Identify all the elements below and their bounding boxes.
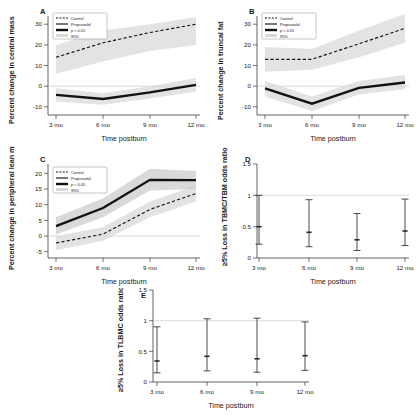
- panel-b-xlabel: Time postburn: [310, 134, 356, 143]
- panel-c-xlabel: Time postburn: [101, 277, 147, 286]
- panel-c-ylabel: Percent change in peripheral lean mass: [7, 146, 16, 270]
- panel-c-y-ticks: -5 0 5 10 15 20: [35, 170, 48, 255]
- panel-a-legend: Control Propranolol p < 0.05 95%: [53, 13, 107, 39]
- panel-a-letter: A: [40, 7, 46, 16]
- panel-e-xtick-1: 6 mo: [200, 388, 214, 395]
- panel-b-xtick-0: 3 mo: [258, 121, 272, 128]
- panel-c: Percent change in peripheral lean mass C…: [0, 146, 210, 291]
- panel-d-errorbar-9mo: [354, 214, 361, 251]
- panel-a-ytick-4: 30: [35, 20, 42, 27]
- panel-a-ytick-1: 0: [39, 82, 43, 89]
- panel-e-xtick-3: 12 mo: [296, 388, 314, 395]
- panel-b-ytick-1: 0: [248, 82, 252, 89]
- panel-c-xtick-1: 6 mo: [96, 264, 110, 271]
- panel-b-xtick-1: 6 mo: [305, 121, 319, 128]
- panel-a-y-ticks: -10 0 10 20 30: [33, 20, 48, 110]
- legend-label-significance: p < 0.05: [71, 182, 85, 187]
- legend-label-propranolol: Propranolol: [71, 22, 91, 27]
- panel-a-ylabel: Percent change in central mass: [7, 16, 16, 124]
- panel-d-xtick-3: 12 mo: [396, 264, 414, 271]
- panel-b-xtick-2: 9 mo: [352, 121, 366, 128]
- panel-e-xlabel: Time postburn: [208, 401, 254, 410]
- panel-a-x-ticks: 3 mo 6 mo 9 mo 12 mo: [49, 115, 205, 128]
- legend-label-interval: 95%: [71, 34, 79, 39]
- panel-d-x-ticks: 3 mo 6 mo 9 mo 12 mo: [252, 258, 414, 271]
- panel-d-xtick-1: 6 mo: [302, 264, 316, 271]
- panel-a-xtick-1: 6 mo: [96, 121, 110, 128]
- panel-b-letter: B: [249, 7, 255, 16]
- panel-c-ytick-2: 5: [39, 217, 43, 224]
- panel-e-ytick-1: 0.5: [138, 348, 147, 355]
- panel-d-errorbar-6mo: [306, 200, 313, 247]
- panel-d-xtick-2: 9 mo: [350, 264, 364, 271]
- panel-b-y-ticks: -10 0 10 20 30: [242, 20, 257, 110]
- panel-e-ylabel: ≥5% Loss in TLBMC odds ratio: [116, 288, 125, 392]
- panel-a-xtick-3: 12 mo: [187, 121, 205, 128]
- panel-c-xtick-2: 9 mo: [143, 264, 157, 271]
- panel-d-errorbar-12mo: [402, 199, 409, 245]
- panel-d-errorbar-3mo: [256, 195, 263, 244]
- panel-b-ytick-4: 30: [244, 20, 251, 27]
- panel-c-legend: Control Propranolol p < 0.05 95%: [53, 167, 107, 193]
- panel-a-propranolol-ci: [56, 78, 196, 105]
- legend-label-propranolol: Propranolol: [71, 176, 91, 181]
- panel-e-xtick-0: 3 mo: [150, 388, 164, 395]
- panel-d: ≥5% Loss in TBMC/TBM odds ratio D 0 0.5 …: [209, 146, 419, 291]
- legend-swatch-interval: [56, 34, 68, 37]
- legend-label-significance: p < 0.05: [280, 28, 294, 33]
- panel-b-xtick-3: 12 mo: [396, 121, 414, 128]
- panel-b-ylabel: Percent change in truncal fat: [216, 21, 225, 120]
- panel-c-xtick-3: 12 mo: [187, 264, 205, 271]
- legend-label-significance: p < 0.05: [71, 28, 85, 33]
- panel-a-ytick-2: 10: [35, 62, 42, 69]
- panel-b-x-ticks: 3 mo 6 mo 9 mo 12 mo: [258, 115, 414, 128]
- panel-e-xtick-2: 9 mo: [250, 388, 264, 395]
- panel-d-ytick-2: 1: [248, 192, 252, 199]
- panel-a: Percent change in central mass A -10 0 1…: [0, 0, 210, 148]
- panel-e: ≥5% Loss in TLBMC odds ratio E 0 0.5 1 1…: [105, 288, 319, 415]
- panel-b-propranolol-ci: [265, 75, 405, 111]
- legend-label-propranolol: Propranolol: [280, 22, 300, 27]
- panel-e-errorbar-9mo: [254, 318, 261, 372]
- legend-label-control: Control: [280, 16, 293, 21]
- panel-d-y-ticks: 0 0.5 1 1.5: [242, 160, 257, 261]
- panel-a-xtick-0: 3 mo: [49, 121, 63, 128]
- legend-label-control: Control: [71, 170, 84, 175]
- legend-label-interval: 95%: [71, 188, 79, 193]
- panel-d-xlabel: Time postburn: [310, 277, 356, 286]
- panel-b-legend: Control Propranolol p < 0.05 95%: [262, 13, 316, 39]
- panel-a-ytick-0: -10: [33, 103, 43, 110]
- panel-e-errorbar-12mo: [302, 322, 309, 370]
- panel-e-y-ticks: 0 0.5 1 1.5: [138, 288, 153, 385]
- panel-b: Percent change in truncal fat B -10 0 10…: [209, 0, 419, 148]
- panel-c-ytick-4: 15: [35, 185, 42, 192]
- panel-d-ytick-3: 1.5: [242, 160, 251, 167]
- panel-c-ytick-0: -5: [36, 248, 42, 255]
- panel-c-xtick-0: 3 mo: [49, 264, 63, 271]
- panel-d-ylabel: ≥5% Loss in TBMC/TBM odds ratio: [220, 147, 229, 266]
- panel-c-letter: C: [40, 155, 46, 164]
- panel-b-ytick-3: 20: [244, 41, 251, 48]
- panel-e-errorbar-3mo: [154, 327, 161, 373]
- panel-e-ytick-2: 1: [144, 317, 148, 324]
- panel-a-ytick-3: 20: [35, 41, 42, 48]
- panel-e-errorbar-6mo: [204, 319, 211, 371]
- panel-e-x-ticks: 3 mo 6 mo 9 mo 12 mo: [150, 382, 314, 395]
- panel-d-ytick-1: 0.5: [242, 223, 251, 230]
- figure-container: Percent change in central mass A -10 0 1…: [0, 0, 419, 415]
- panel-a-xtick-2: 9 mo: [143, 121, 157, 128]
- panel-b-ytick-2: 10: [244, 62, 251, 69]
- panel-a-xlabel: Time postburn: [101, 134, 147, 143]
- legend-label-interval: 95%: [280, 34, 288, 39]
- panel-e-ytick-3: 1.5: [138, 288, 147, 293]
- panel-c-ytick-5: 20: [35, 170, 42, 177]
- panel-c-x-ticks: 3 mo 6 mo 9 mo 12 mo: [49, 258, 205, 271]
- panel-c-ytick-3: 10: [35, 201, 42, 208]
- panel-b-ytick-0: -10: [242, 103, 252, 110]
- panel-d-xtick-0: 3 mo: [252, 264, 266, 271]
- panel-e-ytick-0: 0: [144, 378, 148, 385]
- panel-c-ytick-1: 0: [39, 232, 43, 239]
- legend-label-control: Control: [71, 16, 84, 21]
- panel-d-ytick-0: 0: [248, 254, 252, 261]
